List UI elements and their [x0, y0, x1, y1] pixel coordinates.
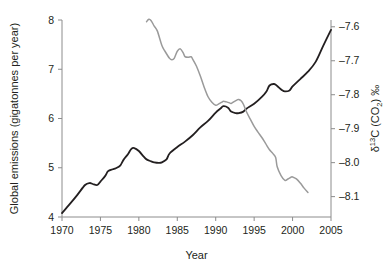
right-axis-tick-label: –7.8 — [339, 88, 360, 100]
left-axis-tick-label: 7 — [48, 63, 54, 75]
left-axis-tick-label: 4 — [48, 211, 54, 223]
x-axis-title: Year — [185, 249, 208, 261]
chart-figure: 45678–7.6–7.7–7.8–7.9–8.0–8.119701975198… — [0, 0, 390, 266]
chart-plot-area: 45678–7.6–7.7–7.8–7.9–8.0–8.119701975198… — [0, 0, 390, 266]
left-axis-tick-label: 6 — [48, 112, 54, 124]
right-axis-title: δ13C (CO2) ‰ — [368, 85, 383, 153]
right-axis-tick-label: –7.6 — [339, 20, 360, 32]
isotope-series-line — [147, 19, 308, 192]
right-axis-tick-label: –7.9 — [339, 122, 360, 134]
left-axis-tick-label: 5 — [48, 161, 54, 173]
x-axis-tick-label: 1975 — [89, 224, 113, 236]
x-axis-tick-label: 1985 — [166, 224, 190, 236]
left-axis-title: Global emissions (gigatonnes per year) — [8, 23, 20, 214]
x-axis-tick-label: 2000 — [281, 224, 305, 236]
right-axis-tick-label: –8.0 — [339, 156, 360, 168]
x-axis-tick-label: 1970 — [50, 224, 74, 236]
left-axis-tick-label: 8 — [48, 14, 54, 26]
right-axis-tick-label: –7.7 — [339, 54, 360, 66]
right-axis-tick-label: –8.1 — [339, 190, 360, 202]
x-axis-tick-label: 1995 — [242, 224, 266, 236]
x-axis-tick-label: 1990 — [204, 224, 228, 236]
x-axis-tick-label: 2005 — [319, 224, 343, 236]
data-series-group — [62, 19, 331, 213]
emissions-series-line — [62, 30, 331, 213]
x-axis-tick-label: 1980 — [127, 224, 151, 236]
